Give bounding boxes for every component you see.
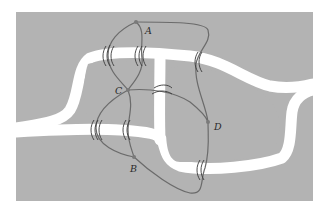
node-d — [206, 120, 210, 124]
label-d: D — [213, 121, 222, 132]
label-b: B — [129, 163, 137, 174]
node-a — [134, 20, 138, 24]
label-a: A — [144, 25, 152, 36]
node-c — [126, 88, 130, 92]
label-c: C — [115, 85, 123, 96]
konigsberg-diagram: A B C D — [0, 0, 331, 211]
node-b — [132, 155, 136, 159]
